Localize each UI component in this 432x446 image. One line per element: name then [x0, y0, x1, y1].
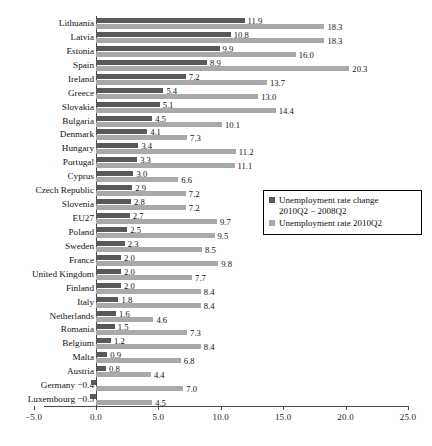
- category-label: Latvia: [71, 30, 94, 45]
- bar-change: [96, 311, 116, 316]
- bar-rate: [96, 66, 349, 71]
- legend-label-rate: Unemployment rate 2010Q2: [279, 218, 382, 229]
- chart-row: Denmark4.17.3: [0, 127, 432, 142]
- bar-rate: [96, 149, 236, 154]
- bar-rate: [96, 219, 217, 224]
- bar-value-change: 11.9: [248, 17, 263, 25]
- bar-rate: [96, 330, 187, 335]
- category-label: Bulgaria: [62, 114, 94, 129]
- x-axis-tick-label: 10.0: [201, 412, 241, 422]
- chart-row: Bulgaria4.510.1: [0, 114, 432, 129]
- bar-value-change: 2.0: [124, 268, 135, 276]
- chart-row: United Kingdom2.07.7: [0, 267, 432, 282]
- category-label: Estonia: [66, 44, 94, 59]
- bar-rate: [96, 386, 183, 391]
- bar-change: [96, 241, 125, 246]
- bar-rate: [96, 247, 202, 252]
- category-label: Portugal: [63, 155, 94, 170]
- x-axis-tick-label: 20.0: [326, 412, 366, 422]
- bar-value-change: 2.0: [124, 254, 135, 262]
- chart-row: Italy1.88.4: [0, 295, 432, 310]
- legend-label-change: Unemployment rate change 2010Q2 − 2008Q2: [279, 195, 378, 217]
- x-axis-tick-label: 25.0: [388, 412, 428, 422]
- bar-rate: [96, 108, 276, 113]
- chart-row: Luxembourg −0.54.5: [0, 392, 432, 407]
- bar-rate: [96, 358, 181, 363]
- bar-rate: [96, 400, 152, 405]
- bar-change: [96, 297, 118, 302]
- chart-row: Latvia10.818.3: [0, 30, 432, 45]
- bar-change: [96, 60, 207, 65]
- category-label: Spain: [73, 58, 94, 73]
- category-label: Romania: [61, 322, 94, 337]
- category-label: Luxembourg −0.5: [28, 392, 94, 407]
- category-label: Greece: [68, 86, 94, 101]
- category-label: Italy: [77, 295, 94, 310]
- x-axis-tick-label: 5.0: [138, 412, 178, 422]
- x-axis-tick-label: 0.0: [76, 412, 116, 422]
- bar-rate: [96, 52, 296, 57]
- bar-rate: [96, 24, 324, 29]
- bar-change: [96, 199, 131, 204]
- category-label: Lithuania: [59, 16, 94, 31]
- chart-row: Germany −0.47.0: [0, 378, 432, 393]
- chart-row: Portugal3.311.1: [0, 155, 432, 170]
- chart-row: Lithuania11.918.3: [0, 16, 432, 31]
- legend-item-rate: Unemployment rate 2010Q2: [269, 218, 416, 229]
- bar-change: [96, 338, 111, 343]
- category-label: Hungary: [62, 141, 94, 156]
- bar-change: [96, 46, 220, 51]
- chart-row: Belgium1.28.4: [0, 336, 432, 351]
- x-axis-tick-label: 15.0: [263, 412, 303, 422]
- bar-change: [96, 116, 152, 121]
- bar-value-change: 9.9: [223, 45, 234, 53]
- category-label: Poland: [68, 225, 94, 240]
- bar-change: [96, 18, 245, 23]
- chart-row: Hungary3.411.2: [0, 141, 432, 156]
- bar-change: [96, 352, 107, 357]
- bar-value-change: 1.5: [118, 323, 129, 331]
- bar-rate: [96, 163, 235, 168]
- bar-change: [96, 32, 231, 37]
- category-label: Slovakia: [62, 100, 94, 115]
- category-label: France: [69, 253, 94, 268]
- bar-rate: [96, 261, 218, 266]
- unemployment-bar-chart: −5.00.05.010.015.020.025.0 Lithuania11.9…: [0, 0, 432, 446]
- bar-change: [96, 171, 133, 176]
- category-label: Czech Republic: [36, 183, 94, 198]
- bar-change: [96, 324, 115, 329]
- legend-label-change-line1: Unemployment rate change: [279, 195, 378, 205]
- bar-change: [96, 88, 163, 93]
- category-label: Denmark: [60, 127, 94, 142]
- legend-swatch-rate-icon: [269, 220, 275, 226]
- bar-rate: [96, 344, 201, 349]
- bar-value-change: 0.9: [110, 351, 121, 359]
- bar-change: [96, 143, 138, 148]
- bar-value-change: 10.8: [234, 31, 249, 39]
- bar-value-change: 1.2: [114, 337, 125, 345]
- category-label: Belgium: [62, 336, 94, 351]
- bar-rate: [96, 233, 215, 238]
- bar-rate: [96, 135, 187, 140]
- bar-change: [96, 227, 127, 232]
- category-label: Sweden: [65, 239, 94, 254]
- bar-value-change: 2.8: [134, 198, 145, 206]
- category-label: Netherlands: [50, 309, 94, 324]
- bar-change: [91, 380, 96, 385]
- bar-rate: [96, 303, 201, 308]
- bar-change: [96, 283, 121, 288]
- bar-value-change: 4.5: [155, 115, 166, 123]
- chart-row: France2.09.8: [0, 253, 432, 268]
- bar-value-change: 1.8: [121, 296, 132, 304]
- chart-row: Cyprus3.06.6: [0, 169, 432, 184]
- bar-rate: [96, 38, 324, 43]
- chart-row: Estonia9.916.0: [0, 44, 432, 59]
- bar-value-change: 8.9: [210, 59, 221, 67]
- bar-change: [96, 129, 147, 134]
- legend-swatch-change-icon: [269, 197, 275, 203]
- category-label: EU27: [73, 211, 94, 226]
- x-axis-tick-label: −5.0: [14, 412, 54, 422]
- category-label: Austria: [67, 364, 94, 379]
- chart-row: Spain8.920.3: [0, 58, 432, 73]
- bar-change: [96, 269, 121, 274]
